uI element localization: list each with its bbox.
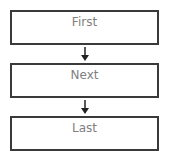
flow-node-next: Next bbox=[10, 63, 159, 98]
node-label: Next bbox=[12, 67, 157, 83]
flow-node-first: First bbox=[10, 10, 159, 45]
arrow-down-icon bbox=[79, 99, 91, 115]
flow-node-last: Last bbox=[10, 116, 159, 151]
node-label: First bbox=[12, 14, 157, 30]
arrow-down-icon bbox=[79, 46, 91, 62]
node-label: Last bbox=[12, 120, 157, 136]
